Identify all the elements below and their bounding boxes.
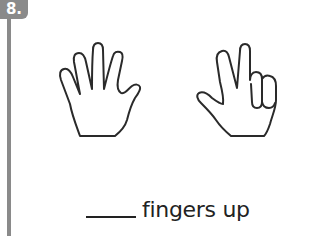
answer-blank[interactable] [86,215,136,218]
three-fingers-hand-icon [197,44,276,136]
answer-row: fingers up [86,193,250,223]
caption-text: fingers up [142,197,250,223]
open-hand-icon [60,43,140,136]
